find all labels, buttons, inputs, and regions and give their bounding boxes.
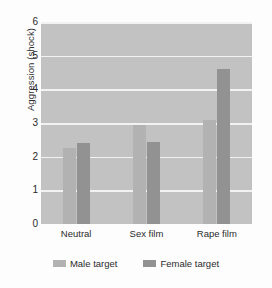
bar — [77, 143, 90, 224]
bar — [147, 142, 160, 224]
legend-swatch-icon — [143, 260, 156, 267]
y-axis-tick: 0 — [20, 219, 38, 229]
bar-group — [63, 22, 90, 224]
bar — [217, 69, 230, 224]
x-axis-category-label: Rape film — [197, 228, 237, 239]
legend-label: Male target — [70, 258, 118, 269]
y-axis-tick: 3 — [20, 118, 38, 128]
x-axis-category-label: Neutral — [61, 228, 92, 239]
bar-chart-figure: Aggression (shock) 0123456 NeutralSex fi… — [0, 0, 272, 288]
y-axis-tick: 5 — [20, 51, 38, 61]
chart-legend: Male targetFemale target — [0, 258, 272, 269]
bar — [63, 148, 76, 224]
bar — [203, 120, 216, 224]
y-axis-tick: 1 — [20, 185, 38, 195]
bar-series-container — [41, 22, 252, 224]
y-axis-tick: 6 — [20, 17, 38, 27]
y-axis-tick: 4 — [20, 84, 38, 94]
x-axis-category-labels: NeutralSex filmRape film — [41, 228, 252, 242]
legend-item: Male target — [53, 258, 118, 269]
bar-group — [203, 22, 230, 224]
plot-area — [41, 22, 252, 224]
legend-label: Female target — [160, 258, 219, 269]
bar-group — [133, 22, 160, 224]
bar — [133, 125, 146, 224]
x-axis-category-label: Sex film — [130, 228, 164, 239]
legend-item: Female target — [143, 258, 219, 269]
legend-swatch-icon — [53, 260, 66, 267]
y-axis-tick: 2 — [20, 152, 38, 162]
y-axis-tick-labels: 0123456 — [20, 22, 38, 224]
